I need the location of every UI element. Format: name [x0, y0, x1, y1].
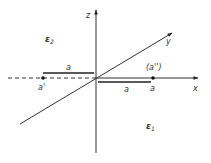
point-a-prime	[41, 76, 45, 80]
distance-label-upper: a	[66, 63, 71, 72]
region-epsilon-2: ε2	[45, 34, 54, 45]
projection-diagram: z y x a a a' a (a'') ε2 ε1	[0, 0, 211, 163]
region-epsilon-1: ε1	[146, 121, 155, 132]
point-a-double-prime-label: (a'')	[146, 63, 162, 72]
distance-label-lower: a	[124, 85, 129, 94]
point-a-prime-label: a'	[38, 83, 45, 92]
point-a	[151, 76, 155, 80]
y-axis-label: y	[165, 37, 171, 46]
x-axis-label: x	[192, 84, 198, 93]
z-axis-label: z	[85, 11, 91, 20]
point-a-label: a	[150, 84, 155, 93]
